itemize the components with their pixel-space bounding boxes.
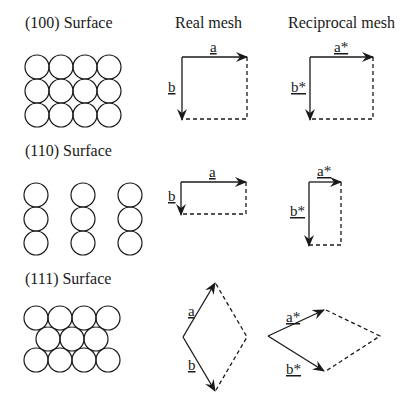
real-mesh-110: [181, 182, 246, 215]
mesh-dashed-edge: [310, 57, 373, 119]
diagram-canvas: a b a* b* a b a* b* a b: [0, 0, 409, 408]
label-a-star-110: a*: [317, 163, 331, 179]
label-a-111: a: [188, 303, 195, 319]
label-a-100: a: [210, 39, 217, 55]
label-a-star-111: a*: [286, 309, 300, 325]
label-b-111: b: [188, 357, 196, 373]
surface-111-atoms: [24, 306, 120, 372]
reciprocal-mesh-110: [309, 182, 341, 246]
label-b-110: b: [168, 188, 176, 204]
label-b-100: b: [168, 79, 176, 95]
real-mesh-111: [183, 283, 247, 391]
label-b-star-100: b*: [291, 79, 306, 95]
reciprocal-mesh-111: [268, 310, 380, 371]
surface-100-atoms: [25, 55, 121, 127]
reciprocal-mesh-100: [310, 57, 373, 120]
label-a-star-100: a*: [334, 39, 348, 55]
label-b-star-111: b*: [286, 361, 301, 377]
mesh-dashed-edge: [181, 182, 246, 214]
surface-110-atoms: [24, 183, 142, 255]
label-a-110: a: [209, 164, 216, 180]
mesh-dashed-edge: [309, 182, 341, 245]
mesh-dashed-edge: [326, 310, 380, 371]
mesh-dashed-edge: [182, 57, 247, 119]
real-mesh-100: [182, 57, 247, 120]
mesh-dashed-edge: [216, 284, 247, 390]
label-b-star-110: b*: [290, 203, 305, 219]
